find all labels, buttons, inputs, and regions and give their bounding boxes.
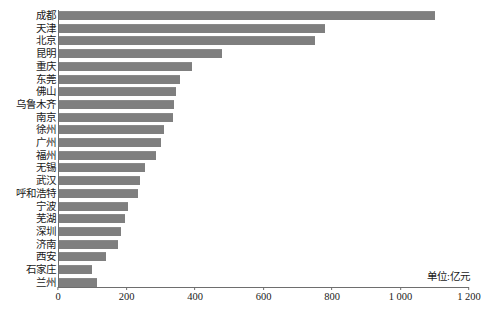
bar — [58, 176, 140, 185]
bar-row — [58, 36, 469, 45]
bar-row — [58, 202, 469, 211]
bar — [58, 75, 180, 84]
category-label: 北京 — [0, 36, 56, 45]
bar — [58, 125, 164, 134]
category-label: 昆明 — [0, 49, 56, 58]
bar — [58, 151, 156, 160]
x-tick-label: 0 — [55, 291, 60, 302]
category-label: 西安 — [0, 252, 56, 261]
bar — [58, 49, 222, 58]
x-tick: 1 200 — [457, 287, 481, 302]
category-label: 石家庄 — [0, 265, 56, 274]
category-label: 南京 — [0, 113, 56, 122]
x-tick-label: 200 — [119, 291, 135, 302]
x-tick: 0 — [55, 287, 60, 302]
category-label: 济南 — [0, 240, 56, 249]
bar-row — [58, 227, 469, 236]
bar — [58, 240, 118, 249]
plot-area — [58, 10, 469, 287]
bar — [58, 227, 121, 236]
bar-rows — [58, 10, 469, 287]
bar-row — [58, 240, 469, 249]
x-tick-label: 800 — [324, 291, 340, 302]
category-label: 重庆 — [0, 62, 56, 71]
bar — [58, 87, 176, 96]
x-tick-label: 600 — [256, 291, 272, 302]
unit-note: 单位:亿元 — [427, 268, 470, 283]
category-label: 深圳 — [0, 227, 56, 236]
x-tick-label: 400 — [187, 291, 203, 302]
bar — [58, 252, 106, 261]
category-label: 芜湖 — [0, 214, 56, 223]
x-tick: 200 — [119, 287, 135, 302]
category-label: 宁波 — [0, 202, 56, 211]
x-tick-mark — [400, 287, 401, 290]
x-axis-ticks: 02004006008001 0001 200 — [58, 287, 469, 309]
bar — [58, 163, 145, 172]
bar — [58, 214, 125, 223]
category-label: 东莞 — [0, 75, 56, 84]
bar — [58, 202, 128, 211]
category-label: 广州 — [0, 138, 56, 147]
category-label: 乌鲁木齐 — [0, 100, 56, 109]
category-label: 兰州 — [0, 278, 56, 287]
x-tick: 600 — [256, 287, 272, 302]
bar-row — [58, 11, 469, 20]
bar-row — [58, 265, 469, 274]
bar-row — [58, 278, 469, 287]
bar — [58, 36, 315, 45]
bar — [58, 138, 161, 147]
x-tick-mark — [126, 287, 127, 290]
bar-row — [58, 163, 469, 172]
category-label: 武汉 — [0, 176, 56, 185]
bar-row — [58, 189, 469, 198]
bar-row — [58, 113, 469, 122]
bar — [58, 11, 435, 20]
category-axis-labels: 成都天津北京昆明重庆东莞佛山乌鲁木齐南京徐州广州福州无锡武汉呼和浩特宁波芜湖深圳… — [0, 10, 56, 287]
bar-row — [58, 49, 469, 58]
x-tick-mark — [263, 287, 264, 290]
x-tick-mark — [58, 287, 59, 290]
bar-row — [58, 176, 469, 185]
bar-row — [58, 214, 469, 223]
bar — [58, 113, 173, 122]
category-label: 福州 — [0, 151, 56, 160]
bar-row — [58, 75, 469, 84]
bar-row — [58, 100, 469, 109]
x-tick-mark — [332, 287, 333, 290]
x-tick-label: 1 200 — [457, 291, 481, 302]
category-label: 无锡 — [0, 163, 56, 172]
x-tick: 400 — [187, 287, 203, 302]
y-axis-line — [58, 10, 59, 288]
bar-row — [58, 87, 469, 96]
bar — [58, 265, 92, 274]
x-tick-label: 1 000 — [389, 291, 413, 302]
bar-chart: 成都天津北京昆明重庆东莞佛山乌鲁木齐南京徐州广州福州无锡武汉呼和浩特宁波芜湖深圳… — [0, 0, 482, 319]
bar-row — [58, 138, 469, 147]
bar-row — [58, 125, 469, 134]
x-tick: 1 000 — [389, 287, 413, 302]
category-label: 徐州 — [0, 125, 56, 134]
bar-row — [58, 24, 469, 33]
x-tick: 800 — [324, 287, 340, 302]
bar — [58, 62, 192, 71]
bar — [58, 100, 174, 109]
bar-row — [58, 252, 469, 261]
category-label: 佛山 — [0, 87, 56, 96]
bar-row — [58, 62, 469, 71]
bar — [58, 24, 325, 33]
category-label: 成都 — [0, 11, 56, 20]
bar — [58, 189, 138, 198]
bar-row — [58, 151, 469, 160]
x-tick-mark — [195, 287, 196, 290]
x-tick-mark — [469, 287, 470, 290]
category-label: 天津 — [0, 24, 56, 33]
category-label: 呼和浩特 — [0, 189, 56, 198]
bar — [58, 278, 97, 287]
